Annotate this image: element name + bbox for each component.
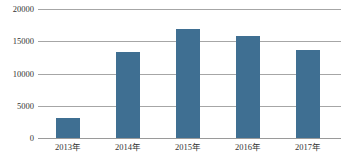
bars-layer [38, 9, 341, 138]
y-tick-label-20000: 20000 [0, 5, 34, 14]
x-tick-label-2017: 2017年 [280, 143, 336, 152]
y-tick-label-5000: 5000 [0, 102, 34, 111]
x-tick-label-2014: 2014年 [100, 143, 156, 152]
x-axis-tick-labels: 2013年 2014年 2015年 2016年 2017年 [38, 143, 341, 159]
x-axis-line [38, 138, 341, 139]
x-tick-label-2015: 2015年 [160, 143, 216, 152]
x-tick-label-2016: 2016年 [220, 143, 276, 152]
bar-2013 [56, 118, 80, 138]
bar-chart: 20000 15000 10000 5000 0 2013年 2014年 201… [0, 0, 345, 163]
bar-2014 [116, 52, 140, 138]
bar-2016 [236, 36, 260, 138]
y-tick-label-10000: 10000 [0, 70, 34, 79]
bar-2015 [176, 29, 200, 138]
bar-2017 [296, 50, 320, 138]
x-tick-label-2013: 2013年 [40, 143, 96, 152]
y-tick-label-0: 0 [0, 134, 34, 143]
y-tick-label-15000: 15000 [0, 37, 34, 46]
